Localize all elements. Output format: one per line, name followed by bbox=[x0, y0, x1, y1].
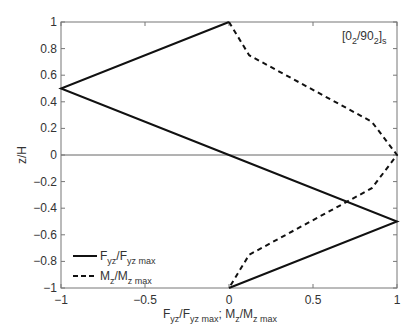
chart: −1−0.500.5110.80.60.40.20−0.2−0.4−0.6−0.… bbox=[0, 0, 417, 335]
layup-annotation: [02/902]s bbox=[342, 29, 387, 46]
plot-axes: −1−0.500.5110.80.60.40.20−0.2−0.4−0.6−0.… bbox=[33, 15, 400, 307]
y-axis-label: z/H bbox=[15, 146, 29, 164]
y-tick-label: −0.6 bbox=[33, 228, 57, 242]
x-tick-label: 0 bbox=[226, 293, 233, 307]
y-tick-label: 0.4 bbox=[40, 95, 57, 109]
y-tick-label: −1 bbox=[43, 281, 57, 295]
x-tick-label: −0.5 bbox=[133, 293, 157, 307]
axis-labels: z/HFyz/Fyz max; Mz/Mz max[02/902]s bbox=[15, 29, 387, 324]
x-tick-label: 1 bbox=[394, 293, 401, 307]
x-tick-label: −1 bbox=[54, 293, 68, 307]
legend: Fyz/Fyz maxMz/Mz max bbox=[73, 249, 156, 286]
y-tick-label: 0 bbox=[50, 148, 57, 162]
y-tick-label: −0.8 bbox=[33, 254, 57, 268]
y-tick-label: −0.4 bbox=[33, 201, 57, 215]
y-tick-label: 0.8 bbox=[40, 42, 57, 56]
y-tick-label: −0.2 bbox=[33, 175, 57, 189]
y-tick-label: 0.2 bbox=[40, 121, 57, 135]
x-tick-label: 0.5 bbox=[305, 293, 322, 307]
legend-label: Mz/Mz max bbox=[100, 269, 152, 286]
y-tick-label: 0.6 bbox=[40, 68, 57, 82]
legend-label: Fyz/Fyz max bbox=[100, 249, 156, 266]
x-axis-label: Fyz/Fyz max; Mz/Mz max bbox=[163, 307, 278, 324]
y-tick-label: 1 bbox=[50, 15, 57, 29]
